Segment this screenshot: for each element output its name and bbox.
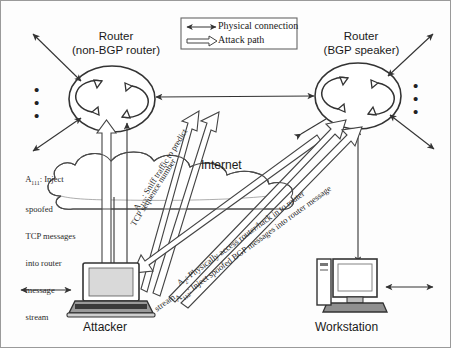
attack-label-a111-line5: message	[26, 285, 55, 295]
attack-label-a111: A111: Inject spoofed TCP messages into r…	[17, 159, 93, 338]
legend-label-physical-connection: Physical connection	[218, 20, 298, 31]
attack-label-a111-line2: spoofed	[26, 204, 53, 214]
router-to-router-link	[156, 96, 314, 97]
router-right-label-line1: Router	[306, 30, 416, 43]
router-right-icon	[315, 63, 401, 129]
internet-label: Internet	[201, 159, 242, 172]
attack-label-a111-line1: : Inject	[40, 174, 64, 184]
diagram-canvas: Physical connection Attack path Router (…	[0, 0, 451, 348]
router-left-icon	[69, 66, 155, 132]
workstation-label: Workstation	[315, 321, 378, 334]
router-left-label-line2: (non-BGP router)	[56, 44, 176, 57]
attack-label-a111-line3: TCP messages	[25, 231, 75, 241]
router-left-label-line1: Router	[61, 30, 171, 43]
ellipsis-left: • • •	[34, 83, 39, 122]
router-right-label-line2: (BGP speaker)	[304, 44, 419, 57]
attack-label-a111-subscript: 111	[31, 179, 39, 185]
ellipsis-dot: •	[413, 105, 418, 118]
ellipsis-right: • • •	[413, 79, 418, 118]
attack-label-a111-line4: into router	[26, 258, 62, 268]
desktop-computer-icon	[317, 259, 387, 312]
attack-label-a111-line6: stream	[26, 312, 49, 322]
ellipsis-dot: •	[34, 109, 39, 122]
legend-label-attack-path: Attack path	[218, 34, 264, 45]
